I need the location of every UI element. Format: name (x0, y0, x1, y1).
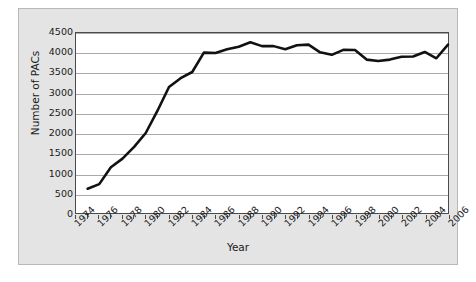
y-tick-label-2500: 2500 (37, 108, 73, 118)
y-axis-label: Number of PACs (29, 33, 41, 153)
x-tick-label-2006: 2006 (446, 204, 471, 229)
y-tick-label-3500: 3500 (37, 67, 73, 77)
plot-area (75, 32, 449, 214)
series-line-number-of-pacs (76, 33, 448, 213)
y-tick-label-500: 500 (37, 189, 73, 199)
y-tick-label-1500: 1500 (37, 148, 73, 158)
x-axis-label: Year (19, 241, 457, 253)
y-tick-label-3000: 3000 (37, 88, 73, 98)
y-tick-label-1000: 1000 (37, 169, 73, 179)
chart-figure: 050010001500200025003000350040004500 Num… (18, 8, 458, 265)
y-tick-label-0: 0 (37, 209, 73, 219)
y-tick-label-4500: 4500 (37, 27, 73, 37)
y-tick-label-4000: 4000 (37, 47, 73, 57)
y-tick-label-2000: 2000 (37, 128, 73, 138)
